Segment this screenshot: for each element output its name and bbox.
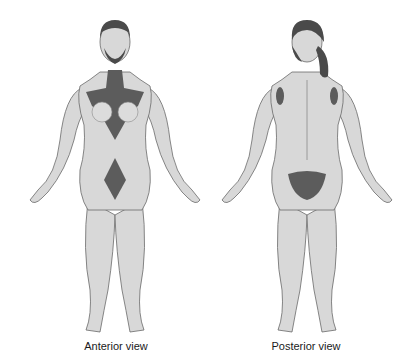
posterior-view-caption: Posterior view — [236, 340, 376, 352]
anterior-body-illustration — [20, 0, 210, 340]
anterior-figure — [20, 0, 210, 340]
anterior-view-caption: Anterior view — [46, 340, 186, 352]
posterior-body-illustration — [212, 0, 402, 340]
left-shoulder-hair-region — [276, 87, 284, 105]
posterior-figure — [212, 0, 402, 340]
right-shoulder-hair-region — [330, 87, 338, 105]
